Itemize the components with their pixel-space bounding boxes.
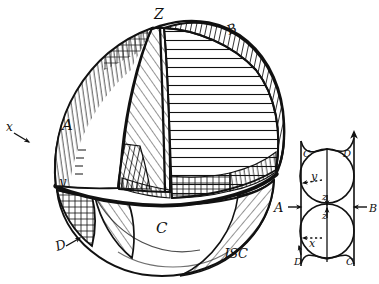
key-cusp-bottom-left (301, 255, 327, 264)
label-x-axis: x (6, 120, 13, 134)
key-label-y: y (310, 170, 318, 183)
x-axis-arrow (14, 133, 29, 142)
key-label-d-topright: D (342, 148, 351, 159)
key-label-z-lower: z (321, 210, 328, 221)
label-c: C (156, 219, 168, 237)
d-pointer-arrow (66, 238, 80, 246)
label-y-axis: y (58, 174, 67, 189)
label-d: D (52, 236, 68, 254)
main-sphere-group (55, 21, 284, 276)
key-label-z-upper: z (321, 191, 328, 202)
label-a: A (60, 116, 73, 134)
key-label-c-topleft: C (303, 148, 311, 159)
figure-canvas: Z B A y C D x JSC (0, 0, 379, 284)
key-label-d-bottomleft: D (293, 256, 302, 267)
sphere-dissection-drawing: Z B A y C D x JSC (0, 0, 379, 284)
signature: JSC (221, 246, 248, 261)
key-label-a: A (273, 200, 283, 215)
key-label-c-bottomright: C (346, 256, 354, 267)
key-label-x: x (309, 237, 316, 250)
key-label-b: B (368, 202, 377, 215)
key-diagram-group: C D D C A B z z y x (273, 132, 377, 267)
label-z-top: Z (153, 6, 164, 22)
